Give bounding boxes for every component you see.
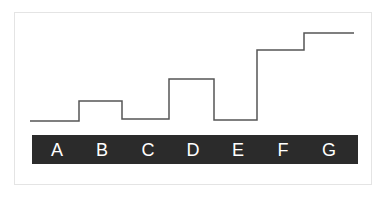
label-a: A xyxy=(42,135,72,164)
label-d: D xyxy=(178,135,208,164)
label-f: F xyxy=(268,135,298,164)
step-line xyxy=(0,0,383,197)
label-b: B xyxy=(87,135,117,164)
label-g: G xyxy=(314,135,344,164)
label-c: C xyxy=(133,135,163,164)
label-bar: A B C D E F G xyxy=(32,135,358,164)
label-e: E xyxy=(223,135,253,164)
